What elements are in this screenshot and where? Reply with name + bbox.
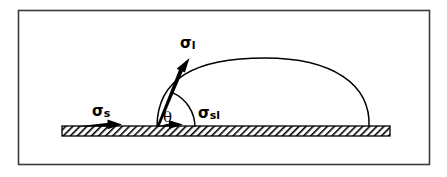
contact-angle-theta-label: θ — [163, 108, 172, 126]
sigma-l-subscript: l — [192, 39, 196, 52]
sigma-s-symbol: σ — [92, 102, 104, 120]
contact-angle-figure: σs σl σsl θ — [0, 0, 447, 177]
sigma-sl-symbol: σ — [198, 104, 210, 122]
diagram-canvas: σs σl σsl θ — [0, 0, 447, 177]
sigma-l-symbol: σ — [180, 34, 192, 52]
sigma-sl-subscript: sl — [210, 109, 220, 122]
figure-background — [0, 0, 447, 177]
sigma-s-subscript: s — [104, 107, 111, 120]
